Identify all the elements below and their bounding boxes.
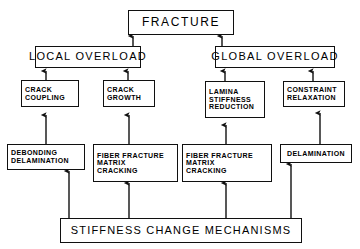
node-lamina-line-0: LAMINA <box>209 88 239 96</box>
node-constraint-line-0: CONSTRAINT <box>287 86 337 94</box>
fracture-flowchart: FRACTURE LOCAL OVERLOAD GLOBAL OVERLOAD … <box>0 0 360 249</box>
node-lamina-line-2: REDUCTION <box>209 103 254 111</box>
node-fiber-right-line-2: CRACKING <box>186 167 227 175</box>
node-crack-growth[interactable]: CRACK GROWTH <box>103 80 155 107</box>
node-fiber-right-line-0: FIBER FRACTURE <box>186 152 253 160</box>
node-crack-growth-line-0: CRACK <box>107 86 134 94</box>
node-local-overload-line-0: LOCAL OVERLOAD <box>29 51 147 63</box>
node-crack-coupling-line-1: COUPLING <box>25 94 65 102</box>
node-fracture-line-0: FRACTURE <box>142 16 220 29</box>
node-global-overload[interactable]: GLOBAL OVERLOAD <box>215 46 335 68</box>
node-fiber-left-line-0: FIBER FRACTURE <box>97 152 164 160</box>
node-fiber-fracture-left[interactable]: FIBER FRACTURE MATRIX CRACKING <box>93 144 178 182</box>
node-fiber-left-line-2: CRACKING <box>97 167 138 175</box>
node-debonding-line-1: DELAMINATION <box>11 157 69 165</box>
node-delamination-line-0: DELAMINATION <box>287 150 345 158</box>
node-fracture[interactable]: FRACTURE <box>128 10 234 35</box>
node-lamina-line-1: STIFFNESS <box>209 96 251 104</box>
edge-layer <box>0 0 360 249</box>
node-fiber-fracture-right[interactable]: FIBER FRACTURE MATRIX CRACKING <box>182 144 272 182</box>
node-crack-coupling-line-0: CRACK <box>25 86 52 94</box>
node-crack-coupling[interactable]: CRACK COUPLING <box>21 80 79 107</box>
node-debonding-line-0: DEBONDING <box>11 149 57 157</box>
node-global-overload-line-0: GLOBAL OVERLOAD <box>211 51 338 63</box>
node-local-overload[interactable]: LOCAL OVERLOAD <box>35 46 141 68</box>
node-constraint-line-1: RELAXATION <box>287 94 336 102</box>
node-crack-growth-line-1: GROWTH <box>107 94 141 102</box>
node-debonding-delamination[interactable]: DEBONDING DELAMINATION <box>7 144 85 170</box>
node-stiffness-change-mechanisms[interactable]: STIFFNESS CHANGE MECHANISMS <box>60 218 302 243</box>
node-constraint-relaxation[interactable]: CONSTRAINT RELAXATION <box>283 81 345 107</box>
node-stiffness-line-0: STIFFNESS CHANGE MECHANISMS <box>71 225 292 237</box>
node-lamina-stiffness-reduction[interactable]: LAMINA STIFFNESS REDUCTION <box>205 81 265 118</box>
node-fiber-right-line-1: MATRIX <box>186 159 215 167</box>
node-fiber-left-line-1: MATRIX <box>97 159 126 167</box>
node-delamination[interactable]: DELAMINATION <box>280 144 352 163</box>
